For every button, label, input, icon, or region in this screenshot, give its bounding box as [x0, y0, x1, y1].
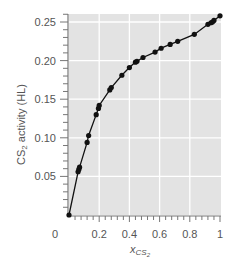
chart: 0.20.40.60.810.050.100.150.200.25 0 xCS2…: [0, 0, 232, 261]
y-tick-label: 0.20: [35, 55, 56, 67]
data-point: [168, 42, 173, 47]
y-tick-label: 0.10: [35, 132, 56, 144]
data-point: [97, 103, 102, 108]
data-point: [211, 18, 216, 23]
data-point: [94, 112, 99, 117]
data-point: [159, 46, 164, 51]
data-point: [77, 165, 82, 170]
data-point: [152, 50, 157, 55]
y-tick-label: 0.05: [35, 170, 56, 182]
x-tick-label: 1: [217, 228, 223, 240]
origin-label: 0: [52, 228, 58, 240]
data-point: [85, 140, 90, 145]
data-point: [134, 59, 139, 64]
data-point: [127, 65, 132, 70]
data-point: [217, 13, 222, 18]
data-point: [175, 39, 180, 44]
x-tick-label: 0.4: [122, 228, 137, 240]
x-tick-label: 0.2: [92, 228, 107, 240]
plot-area: [69, 14, 221, 215]
y-tick-label: 0.15: [35, 93, 56, 105]
data-point: [192, 32, 197, 37]
data-point: [66, 212, 71, 217]
data-point: [86, 133, 91, 138]
y-axis-title: CS2 activity (HL): [15, 84, 29, 165]
x-tick-label: 0.6: [152, 228, 167, 240]
x-tick-label: 0.8: [182, 228, 197, 240]
x-axis-title: xCS2: [129, 243, 151, 258]
data-point: [109, 85, 114, 90]
data-point: [140, 55, 145, 60]
y-tick-label: 0.25: [35, 16, 56, 28]
data-point: [119, 73, 124, 78]
